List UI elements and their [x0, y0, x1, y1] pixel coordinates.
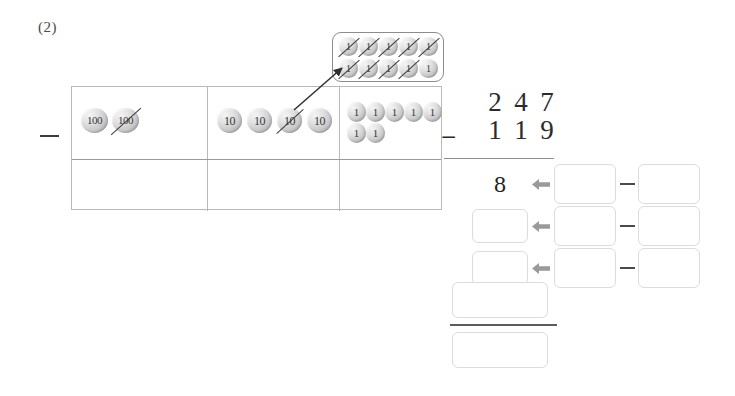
subtrahend-row: 1 1 9 [440, 114, 560, 146]
regroup-box[interactable]: 1 1 1 1 1 1 1 1 1 1 [332, 32, 444, 82]
final-answer-rule [450, 324, 557, 326]
regroup-counter-7[interactable]: 1 [359, 59, 378, 78]
counter-one-4[interactable]: 1 [404, 102, 423, 122]
place-value-table: 100 100 10 10 10 [71, 86, 442, 210]
work-operand-left-tens[interactable] [554, 206, 616, 246]
subtrahend-digit-tens: 1 [508, 117, 534, 144]
counter-label: 10 [224, 115, 235, 127]
work-operator-ones [616, 167, 638, 201]
place-value-cell-tens[interactable]: 10 10 10 10 [207, 87, 339, 159]
work-row-ones: 8 [472, 165, 700, 203]
counter-one-3[interactable]: 1 [385, 102, 404, 122]
regroup-counter-9[interactable]: 1 [399, 59, 418, 78]
regroup-counter-4[interactable]: 1 [399, 37, 418, 56]
final-box-lower[interactable] [452, 332, 548, 368]
work-operator-hundreds [616, 251, 638, 285]
regroup-counter-8[interactable]: 1 [379, 59, 398, 78]
counter-label: 1 [386, 42, 391, 52]
regroup-counter-5[interactable]: 1 [419, 37, 438, 56]
subtrahend-digit-hundreds: 1 [482, 117, 508, 144]
counter-label: 100 [118, 115, 133, 126]
counter-one-2[interactable]: 1 [366, 102, 385, 122]
place-value-cell-hundreds[interactable]: 100 100 [72, 87, 207, 159]
tens-counter-area: 10 10 10 10 [215, 94, 335, 157]
place-value-row-answers [72, 159, 441, 211]
work-operand-right-ones[interactable] [638, 164, 700, 204]
work-operand-right-hundreds[interactable] [638, 248, 700, 288]
minuend-digit-hundreds: 2 [482, 89, 508, 116]
counter-label: 10 [284, 115, 295, 127]
answer-cell-hundreds[interactable] [72, 160, 207, 211]
counter-label: 1 [430, 107, 436, 118]
minuend-digit-ones: 7 [534, 89, 560, 116]
work-operator-tens [616, 209, 638, 243]
work-row-result-hundreds[interactable] [472, 251, 528, 285]
counter-label: 1 [406, 42, 411, 52]
hundreds-counter-area: 100 100 [79, 94, 203, 157]
minuend-digit-tens: 4 [508, 89, 534, 116]
regroup-counter-6[interactable]: 1 [339, 59, 358, 78]
work-operand-left-ones[interactable] [554, 164, 616, 204]
regroup-counter-area: 1 1 1 1 1 1 1 1 1 1 [339, 37, 439, 78]
counter-ten-3-crossed[interactable]: 10 [277, 108, 302, 133]
table-minus-sign [40, 135, 59, 137]
counter-label: 10 [314, 115, 325, 127]
counter-ten-4-regrouped[interactable]: 10 [307, 108, 332, 133]
counter-one-1[interactable]: 1 [347, 102, 366, 122]
result-value: 8 [494, 172, 506, 196]
regroup-counter-3[interactable]: 1 [379, 37, 398, 56]
counter-one-6[interactable]: 1 [347, 123, 366, 143]
left-arrow-icon-tens [530, 209, 552, 243]
counter-label: 1 [373, 128, 379, 139]
vertical-subtraction: 2 4 7 1 1 9 − [440, 86, 560, 164]
final-box-upper[interactable] [452, 282, 548, 318]
counter-label: 1 [406, 64, 411, 74]
work-operand-right-tens[interactable] [638, 206, 700, 246]
counter-one-7[interactable]: 1 [366, 123, 385, 143]
counter-label: 1 [392, 107, 398, 118]
counter-label: 1 [426, 42, 431, 52]
counter-label: 1 [354, 128, 360, 139]
counter-label: 1 [386, 64, 391, 74]
algorithm-rule [444, 158, 554, 159]
counter-label: 1 [354, 107, 360, 118]
counter-label: 1 [346, 64, 351, 74]
subtraction-operator: − [441, 124, 456, 151]
counter-label: 1 [426, 64, 431, 74]
counter-label: 10 [254, 115, 265, 127]
counter-ten-1[interactable]: 10 [217, 108, 242, 133]
counter-hundred-1[interactable]: 100 [81, 108, 108, 133]
answer-cell-tens[interactable] [207, 160, 339, 211]
regroup-counter-10[interactable]: 1 [419, 59, 438, 78]
counter-label: 1 [346, 42, 351, 52]
counter-ten-2[interactable]: 10 [247, 108, 272, 133]
subtrahend-digit-ones: 9 [534, 117, 560, 144]
counter-label: 1 [411, 107, 417, 118]
counter-label: 1 [373, 107, 379, 118]
counter-label: 1 [366, 64, 371, 74]
work-operand-left-hundreds[interactable] [554, 248, 616, 288]
counter-label: 1 [366, 42, 371, 52]
work-row-result-ones[interactable]: 8 [472, 167, 528, 201]
problem-number: (2) [38, 19, 57, 36]
work-row-result-tens[interactable] [472, 209, 528, 243]
answer-cell-ones[interactable] [339, 160, 443, 211]
counter-hundred-2-crossed[interactable]: 100 [112, 108, 139, 133]
left-arrow-icon-ones [530, 167, 552, 201]
counter-label: 100 [87, 115, 102, 126]
left-arrow-icon-hundreds [530, 251, 552, 285]
regroup-counter-1[interactable]: 1 [339, 37, 358, 56]
work-row-tens [472, 207, 700, 245]
ones-counter-area: 1 1 1 1 1 1 1 [347, 94, 439, 157]
place-value-cell-ones[interactable]: 1 1 1 1 1 1 1 [339, 87, 443, 159]
regroup-counter-2[interactable]: 1 [359, 37, 378, 56]
place-value-row-counters: 100 100 10 10 10 [72, 87, 441, 159]
